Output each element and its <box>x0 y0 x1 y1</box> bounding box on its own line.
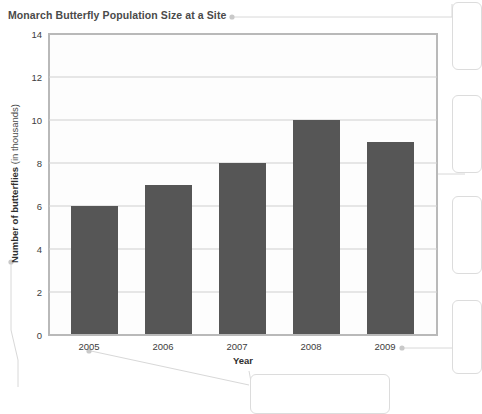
bars-group <box>50 35 436 334</box>
y-tick-14: 14 <box>4 30 42 40</box>
x-tick-2009: 2009 <box>348 341 422 352</box>
y-tick-0: 0 <box>4 331 42 341</box>
x-tick-2008: 2008 <box>274 341 348 352</box>
bar-2008 <box>293 120 340 334</box>
y-tick-2: 2 <box>4 288 42 298</box>
x-axis-title: Year <box>48 355 438 366</box>
y-axis-title-units: (in thousands) <box>9 104 20 167</box>
x-tick-2006: 2006 <box>126 341 200 352</box>
callout-box-top-right <box>452 2 482 70</box>
x-tick-2005: 2005 <box>52 341 126 352</box>
y-axis-ticks: 14 12 10 8 6 4 2 0 <box>0 0 42 387</box>
callout-box-middle-right <box>452 95 482 173</box>
x-tick-2007: 2007 <box>200 341 274 352</box>
y-axis-title: Number of butterflies (in thousands) <box>9 104 20 264</box>
bar-2005 <box>71 206 118 334</box>
callout-box-bottom-left <box>250 374 390 414</box>
callout-box-bottom-right <box>452 300 482 374</box>
y-tick-12: 12 <box>4 73 42 83</box>
bar-2007 <box>219 163 266 334</box>
callout-box-lower-right <box>452 196 482 274</box>
bar-2006 <box>145 185 192 335</box>
bar-2009 <box>367 142 414 334</box>
y-axis-title-strong: Number of butterflies <box>9 167 20 263</box>
